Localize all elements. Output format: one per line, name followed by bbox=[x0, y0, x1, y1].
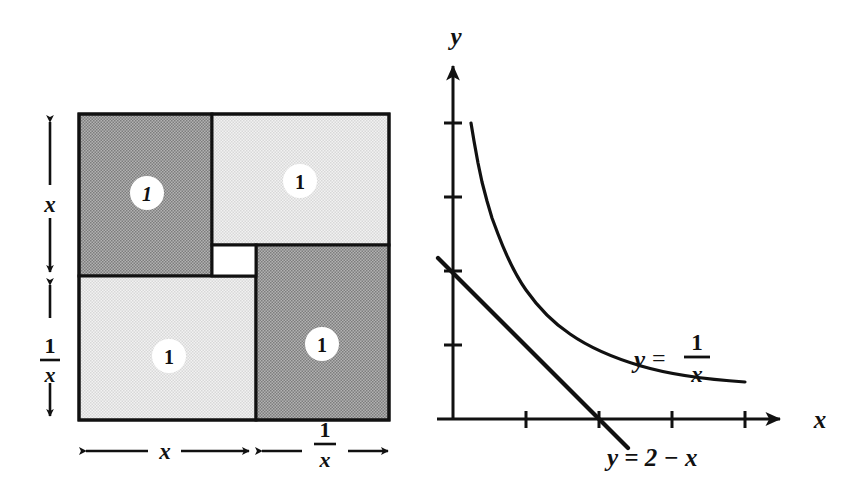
curve-label-numerator: 1 bbox=[691, 330, 703, 355]
dimension-label-horizontal-x: x bbox=[158, 439, 171, 464]
dimension-label-horizontal-denominator: x bbox=[319, 447, 331, 472]
x-axis-label: x bbox=[813, 406, 827, 433]
figure-svg: 1 1 1 1 x 1 x bbox=[0, 0, 847, 498]
dimension-label-vertical-x: x bbox=[43, 192, 56, 217]
graph-panel: y x y = 1 bbox=[437, 23, 826, 471]
dimension-vertical-one-over-x: 1 x bbox=[40, 285, 60, 416]
line-label-two-minus-x: y = 2 − x bbox=[604, 444, 698, 471]
square-dissection-diagram: 1 1 1 1 x 1 x bbox=[40, 114, 389, 472]
area-label-bottom-right: 1 bbox=[317, 334, 327, 356]
area-label-top-left: 1 bbox=[142, 183, 152, 205]
area-label-bottom-left: 1 bbox=[164, 346, 174, 368]
dimension-label-vertical-numerator: 1 bbox=[45, 333, 56, 358]
dimension-horizontal-x: x bbox=[86, 439, 249, 464]
curve-label-lhs: y bbox=[631, 346, 646, 373]
dimension-label-horizontal-numerator: 1 bbox=[320, 417, 331, 442]
dimension-horizontal-one-over-x: 1 x bbox=[262, 417, 388, 472]
y-axis-label: y bbox=[447, 23, 462, 50]
math-figure: 1 1 1 1 x 1 x bbox=[0, 0, 847, 498]
area-label-top-right: 1 bbox=[295, 171, 305, 193]
curve-label-denominator: x bbox=[690, 362, 703, 387]
dimension-vertical-x: x bbox=[43, 122, 56, 272]
curve-reciprocal bbox=[471, 123, 745, 382]
region-center-gap bbox=[212, 245, 256, 276]
curve-label-equals: = bbox=[652, 345, 666, 371]
dimension-label-vertical-denominator: x bbox=[44, 362, 56, 387]
curve-label-reciprocal: y = 1 x bbox=[631, 330, 710, 387]
